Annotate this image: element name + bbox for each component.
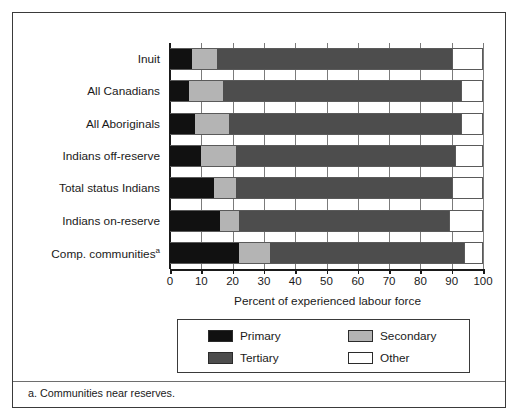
x-axis-tick xyxy=(420,269,422,274)
category-label: Comp. communitiesa xyxy=(20,246,160,261)
footnote-text: a. Communities near reserves. xyxy=(28,387,175,399)
x-axis-tick-label: 70 xyxy=(383,275,396,287)
legend-item: Tertiary xyxy=(208,351,279,365)
x-axis-tick-label: 10 xyxy=(195,275,208,287)
x-axis-tick-label: 90 xyxy=(445,275,458,287)
bar-segment-tertiary xyxy=(217,48,452,70)
bar-segment-tertiary xyxy=(239,210,449,232)
legend-swatch-primary xyxy=(208,330,233,342)
legend-label: Secondary xyxy=(380,329,436,343)
bar-segment-tertiary xyxy=(270,242,464,264)
x-axis-tick-label: 0 xyxy=(167,275,173,287)
footnote-divider xyxy=(13,381,505,382)
legend-swatch-other xyxy=(348,352,373,364)
x-axis-tick-label: 100 xyxy=(473,275,492,287)
bar-segment-other xyxy=(461,80,483,102)
legend-swatch-secondary xyxy=(348,330,373,342)
bar-segment-primary xyxy=(170,48,192,70)
bar-segment-secondary xyxy=(214,177,236,199)
bar-segment-secondary xyxy=(201,145,235,167)
x-axis-tick-label: 80 xyxy=(414,275,427,287)
category-label: All Aboriginals xyxy=(20,117,160,131)
x-axis-tick-label: 30 xyxy=(257,275,270,287)
bar-segment-primary xyxy=(170,242,239,264)
x-axis-tick-label: 50 xyxy=(320,275,333,287)
bar-segment-primary xyxy=(170,210,220,232)
bar-segment-tertiary xyxy=(229,113,461,135)
category-label: Total status Indians xyxy=(20,181,160,195)
x-axis-tick-label: 60 xyxy=(351,275,364,287)
category-label: Indians on-reserve xyxy=(20,214,160,228)
x-axis-tick xyxy=(452,269,454,274)
bar-segment-primary xyxy=(170,80,189,102)
bar-segment-other xyxy=(449,210,483,232)
bar-segment-secondary xyxy=(220,210,239,232)
bar-segment-tertiary xyxy=(236,145,455,167)
legend-label: Primary xyxy=(240,329,281,343)
x-axis-tick xyxy=(201,269,203,274)
legend-swatch-tertiary xyxy=(208,352,233,364)
bar-segment-other xyxy=(464,242,483,264)
x-axis-tick xyxy=(295,269,297,274)
x-axis-tick xyxy=(233,269,235,274)
x-axis-tick xyxy=(170,269,172,274)
legend-item: Other xyxy=(348,351,410,365)
x-axis-tick xyxy=(327,269,329,274)
bar-segment-tertiary xyxy=(223,80,461,102)
bar-segment-secondary xyxy=(195,113,229,135)
chart-legend: PrimaryTertiarySecondaryOther xyxy=(177,319,470,373)
bar-segment-secondary xyxy=(239,242,270,264)
category-label: Indians off-reserve xyxy=(20,149,160,163)
x-axis-tick-label: 20 xyxy=(226,275,239,287)
category-label: Inuit xyxy=(20,52,160,66)
bar-segment-primary xyxy=(170,145,201,167)
x-axis-label: Percent of experienced labour force xyxy=(170,294,485,308)
bar-segment-primary xyxy=(170,177,214,199)
bar-segment-other xyxy=(452,48,483,70)
legend-label: Tertiary xyxy=(240,351,279,365)
category-label: All Canadians xyxy=(20,84,160,98)
legend-label: Other xyxy=(380,351,410,365)
x-axis-tick xyxy=(389,269,391,274)
bar-segment-secondary xyxy=(189,80,223,102)
bar-segment-primary xyxy=(170,113,195,135)
bar-segment-other xyxy=(452,177,483,199)
bar-segment-other xyxy=(455,145,483,167)
legend-item: Secondary xyxy=(348,329,436,343)
x-axis-tick xyxy=(483,269,485,274)
bar-segment-tertiary xyxy=(236,177,452,199)
x-axis-tick xyxy=(358,269,360,274)
x-axis-tick xyxy=(264,269,266,274)
x-axis-tick-label: 40 xyxy=(289,275,302,287)
bar-segment-secondary xyxy=(192,48,217,70)
legend-item: Primary xyxy=(208,329,281,343)
bar-segment-other xyxy=(461,113,483,135)
figure-panel: Percent of experienced labour force Prim… xyxy=(12,12,506,408)
